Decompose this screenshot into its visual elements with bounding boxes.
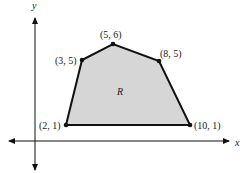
vertex-label-2-1: (2, 1) <box>39 120 61 132</box>
diagram-canvas: y x (2, 1) (3, 5) (5, 6) (8, 5) (10, 1) … <box>0 0 240 173</box>
y-axis-label: y <box>31 0 37 11</box>
vertex-3-5 <box>80 58 85 63</box>
vertex-5-6 <box>111 42 116 47</box>
vertex-label-8-5: (8, 5) <box>160 48 182 60</box>
vertex-label-3-5: (3, 5) <box>55 55 77 67</box>
vertex-10-1 <box>188 123 193 128</box>
vertex-8-5 <box>157 59 162 64</box>
vertex-label-5-6: (5, 6) <box>100 29 122 41</box>
region-label: R <box>116 86 123 97</box>
x-axis-label: x <box>234 137 240 148</box>
vertex-label-10-1: (10, 1) <box>194 120 221 132</box>
vertex-2-1 <box>64 123 69 128</box>
